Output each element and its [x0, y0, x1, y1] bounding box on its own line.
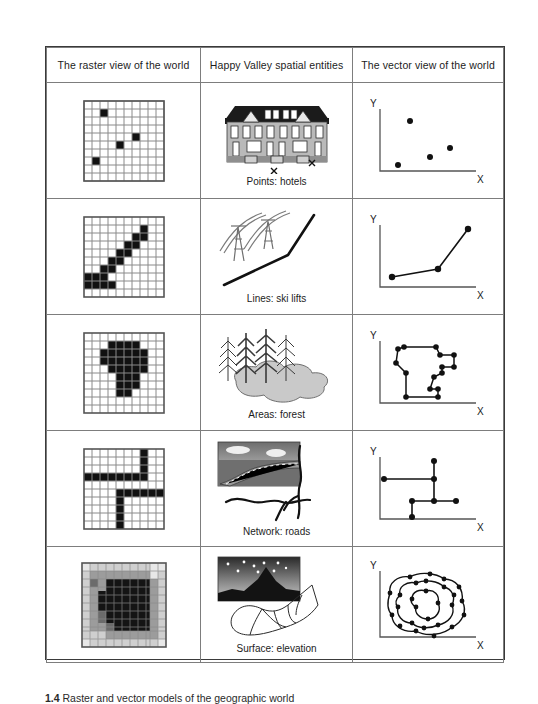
row-caption: Lines: ski lifts [247, 293, 306, 305]
axis-label-x: X [477, 290, 484, 301]
vector-plot-polyline: Y X [364, 211, 492, 303]
network-edges [384, 461, 456, 517]
conifer-icon [219, 337, 237, 381]
table-row: Lines: ski lifts Y X [47, 199, 504, 315]
road-photo-and-road-network-illustration [214, 440, 340, 524]
table-row: Network: roads Y X [47, 431, 504, 547]
row-caption: Network: roads [243, 526, 310, 538]
table-row: Surface: elevation Y X [47, 547, 504, 663]
vector-plot-points: Y X [364, 95, 492, 187]
axis-label-x: X [477, 640, 484, 651]
figure-number: 1.4 [45, 692, 60, 704]
raster-cell-network [47, 431, 201, 547]
vector-cell-points: Y X [353, 83, 504, 199]
figure-table-frame: The raster view of the world Happy Valle… [45, 46, 505, 660]
raster-cell-points [47, 83, 201, 199]
column-header-raster: The raster view of the world [47, 48, 201, 83]
raster-cell-lines [47, 199, 201, 315]
ski-lift-towers-illustration [214, 209, 340, 291]
table-row: Areas: forest Y X [47, 315, 504, 431]
table-row: Points: hotels Y X [47, 83, 504, 199]
raster-grid-lines [78, 213, 170, 301]
vector-plot-contours: Y X [364, 557, 492, 653]
table-header-row: The raster view of the world Happy Valle… [47, 48, 504, 83]
row-caption: Points: hotels [247, 176, 307, 188]
raster-cell-areas [47, 315, 201, 431]
entity-cell-points: Points: hotels [201, 83, 353, 199]
raster-grid-points [78, 97, 170, 185]
road-photo [218, 442, 300, 486]
forest-trees-and-lake-illustration [214, 325, 340, 407]
vector-cell-surface: Y X [353, 547, 504, 663]
row-caption: Areas: forest [248, 409, 305, 421]
vector-plot-network: Y X [364, 443, 492, 535]
raster-grid-areas [78, 329, 170, 417]
axis-label-y: Y [370, 560, 377, 571]
axis-label-y: Y [370, 214, 377, 225]
entity-cell-surface: Surface: elevation [201, 547, 353, 663]
entity-cell-lines: Lines: ski lifts [201, 199, 353, 315]
column-header-vector: The vector view of the world [353, 48, 504, 83]
raster-grid-network [78, 445, 170, 533]
axis-label-y: Y [370, 330, 377, 341]
hotel-building-illustration [219, 94, 335, 174]
vector-cell-network: Y X [353, 431, 504, 547]
vector-cell-areas: Y X [353, 315, 504, 431]
entity-cell-network: Network: roads [201, 431, 353, 547]
figure-caption: 1.4 Raster and vector models of the geog… [45, 692, 515, 704]
axis-label-y: Y [370, 446, 377, 457]
raster-cell-surface [47, 547, 201, 663]
entity-cell-areas: Areas: forest [201, 315, 353, 431]
axis-label-x: X [477, 522, 484, 533]
axis-label-x: X [477, 406, 484, 417]
axis-label-x: X [477, 174, 484, 185]
mountain-night-photo-and-tin-surface-illustration [214, 555, 340, 641]
raster-grid-surface [76, 559, 172, 651]
vector-plot-polygon: Y X [364, 327, 492, 419]
night-mountain-photo [218, 557, 300, 601]
figure-caption-text: Raster and vector models of the geograph… [63, 692, 295, 704]
column-header-entities: Happy Valley spatial entities [201, 48, 353, 83]
axis-label-y: Y [370, 98, 377, 109]
row-caption: Surface: elevation [237, 643, 317, 655]
vector-cell-lines: Y X [353, 199, 504, 315]
raster-vector-comparison-table: The raster view of the world Happy Valle… [46, 47, 504, 663]
